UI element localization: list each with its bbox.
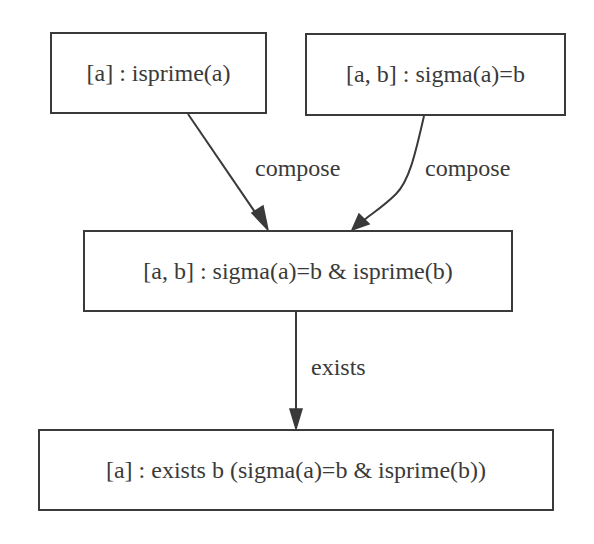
node-exists-b: [a] : exists b (sigma(a)=b & isprime(b)) [38,429,554,511]
edge-line [364,116,424,220]
node-label: [a, b] : sigma(a)=b & isprime(b) [143,258,452,285]
diagram-canvas: [a] : isprime(a) [a, b] : sigma(a)=b [a,… [0,0,594,544]
edge-label-compose-right: compose [425,155,510,182]
arrowhead-icon [352,214,369,230]
arrowhead-icon [290,409,302,429]
edge-label-compose-left: compose [255,155,340,182]
node-label: [a] : isprime(a) [87,60,231,87]
edge-line [188,114,259,218]
node-sigma-and-isprime: [a, b] : sigma(a)=b & isprime(b) [83,230,513,312]
edge-compose-right [352,116,424,230]
node-isprime-a: [a] : isprime(a) [50,32,267,114]
edge-label-exists: exists [311,354,366,381]
edge-exists [290,312,302,429]
node-sigma-a-eq-b: [a, b] : sigma(a)=b [305,33,566,116]
node-label: [a] : exists b (sigma(a)=b & isprime(b)) [106,457,486,484]
node-label: [a, b] : sigma(a)=b [346,61,525,88]
